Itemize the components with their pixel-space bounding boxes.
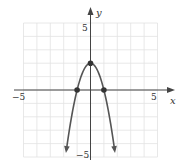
y-axis-arrow-icon xyxy=(88,7,94,15)
axes xyxy=(14,7,175,160)
marked-point xyxy=(101,87,107,93)
y-tick-max-label: 5 xyxy=(82,23,88,33)
x-axis-label: x xyxy=(170,95,176,106)
y-tick-min-label: −5 xyxy=(76,150,90,160)
arrow-head-icon xyxy=(64,146,70,153)
y-axis-label: y xyxy=(95,7,102,18)
marked-point xyxy=(74,87,80,93)
x-tick-max-label: 5 xyxy=(151,92,157,102)
parabola-graph: x y −5 5 5 −5 xyxy=(0,0,181,165)
x-tick-min-label: −5 xyxy=(12,92,26,102)
marked-point xyxy=(88,60,94,66)
x-axis-arrow-icon xyxy=(167,87,175,93)
arrow-head-icon xyxy=(111,146,117,153)
